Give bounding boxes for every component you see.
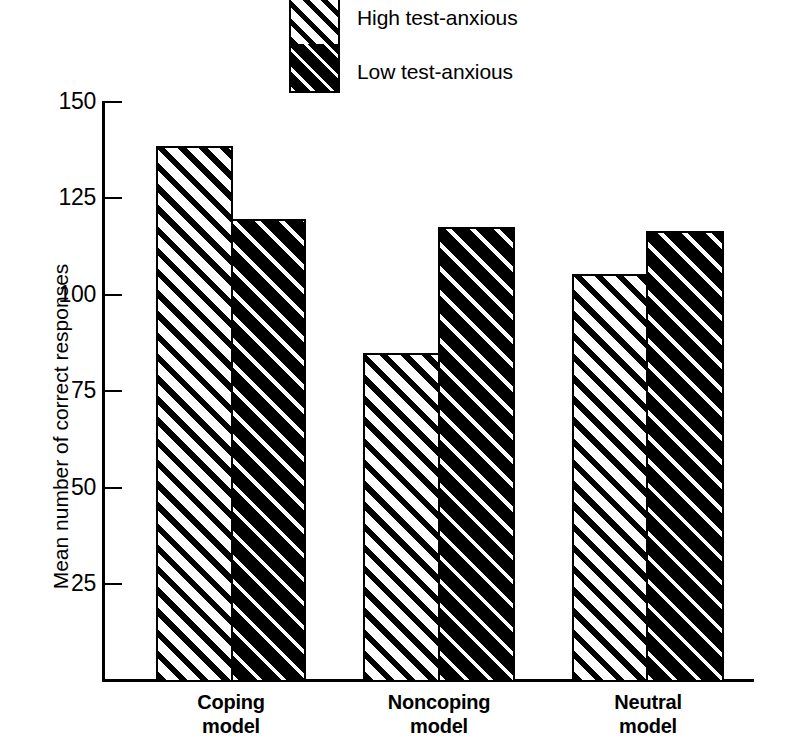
bar-coping-high-test-anxious [156, 146, 233, 682]
y-tick-mark-50 [105, 487, 122, 489]
x-axis-label-neutral-line1: Neutral [614, 691, 682, 713]
bar-coping-low-test-anxious [231, 219, 306, 682]
x-axis-label-coping-model: Coping model [121, 690, 341, 738]
bar-noncoping-high-test-anxious [363, 353, 440, 682]
y-tick-label-150: 150 [16, 90, 96, 113]
y-tick-mark-75 [105, 390, 122, 392]
x-axis-label-neutral-line2: model [538, 714, 758, 738]
y-tick-mark-150 [105, 101, 122, 103]
y-tick-label-125: 125 [16, 186, 96, 209]
bar-neutral-low-test-anxious [646, 231, 724, 682]
y-tick-mark-25 [105, 583, 122, 585]
x-axis-label-noncoping-line2: model [329, 714, 549, 738]
y-tick-mark-100 [105, 294, 122, 296]
bar-chart-figure: High test-anxious Low test-anxious 150 1… [0, 0, 788, 741]
x-axis-label-neutral-model: Neutral model [538, 690, 758, 738]
x-axis-label-coping-line2: model [121, 714, 341, 738]
bar-noncoping-low-test-anxious [438, 227, 515, 682]
bar-neutral-high-test-anxious [572, 274, 648, 682]
x-axis-label-coping-line1: Coping [197, 691, 265, 713]
plot-area: 150 125 100 75 50 25 Mean number of corr… [0, 0, 788, 741]
y-tick-mark-125 [105, 197, 122, 199]
x-axis-label-noncoping-model: Noncoping model [329, 690, 549, 738]
x-axis-label-noncoping-line1: Noncoping [388, 691, 491, 713]
y-axis-title: Mean number of correct responses [50, 217, 71, 637]
